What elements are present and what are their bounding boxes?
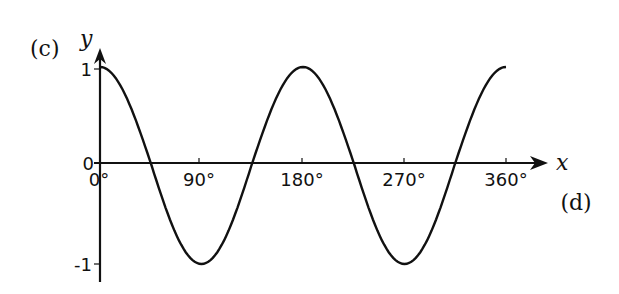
x-axis-label: x [556, 150, 569, 175]
cosine-curve [100, 67, 506, 264]
part-c-label: (c) [30, 36, 60, 61]
part-d-label: (d) [560, 190, 591, 215]
x-tick-label-180: 180° [280, 169, 323, 190]
graph: (c) y x (d) 1 0 -1 0° 90° 180° 270° 360° [0, 0, 619, 294]
x-tick-label-90: 90° [183, 169, 215, 190]
y-tick-label-1: 1 [81, 59, 92, 80]
x-tick-label-0: 0° [89, 169, 109, 190]
x-tick-label-270: 270° [382, 169, 425, 190]
y-tick-label-neg1: -1 [74, 254, 92, 275]
x-tick-label-360: 360° [484, 169, 527, 190]
y-axis-label: y [79, 26, 93, 51]
